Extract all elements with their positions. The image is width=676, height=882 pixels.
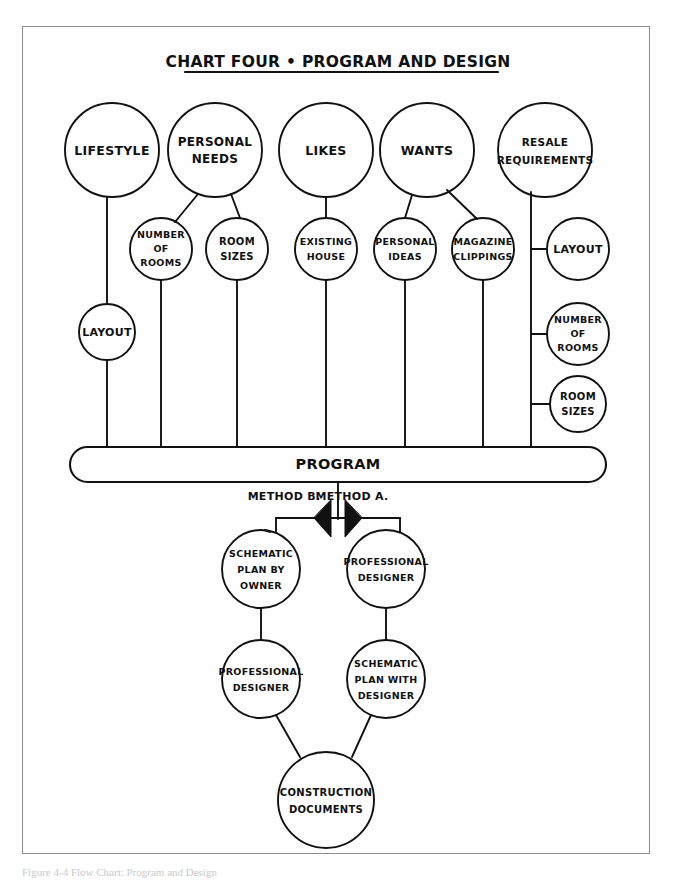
label-existing-house-line2: HOUSE	[307, 251, 346, 262]
node-magazine-clippings[interactable]	[452, 218, 514, 280]
label-number-rooms-line3: ROOMS	[140, 257, 181, 268]
label-prof-designer-b-line1: PROFESSIONAL	[218, 666, 303, 677]
edge-personalneeds-roomsizes	[231, 194, 240, 218]
node-personal-needs[interactable]	[168, 103, 262, 197]
node-existing-house[interactable]	[295, 218, 357, 280]
label-construction-docs-line1: CONSTRUCTION	[280, 787, 372, 798]
label-prof-designer-a-line1: PROFESSIONAL	[343, 556, 428, 567]
label-personal-ideas-line1: PERSONAL	[375, 236, 434, 247]
label-schematic-owner-line3: OWNER	[240, 580, 282, 591]
label-wants: WANTS	[401, 143, 453, 158]
label-room-sizes-right-line1: ROOM	[560, 391, 596, 402]
method-b-label: METHOD B.	[248, 490, 321, 503]
label-personal-needs-line1: PERSONAL	[178, 135, 253, 149]
label-magazine-clippings-line1: MAGAZINE	[453, 236, 512, 247]
label-schematic-owner-line1: SCHEMATIC	[229, 548, 293, 559]
label-schematic-owner-line2: PLAN BY	[237, 564, 284, 575]
label-number-rooms-line2: OF	[153, 243, 168, 254]
label-resale-line1: RESALE	[522, 136, 569, 148]
node-construction-documents[interactable]	[278, 752, 374, 848]
label-schematic-with-line3: DESIGNER	[358, 690, 415, 701]
page-canvas: CHART FOUR • PROGRAM AND DESIGN	[0, 0, 676, 882]
figure-caption: Figure 4-4 Flow Chart: Program and Desig…	[22, 866, 217, 878]
label-schematic-with-line1: SCHEMATIC	[354, 658, 418, 669]
label-existing-house-line1: EXISTING	[300, 236, 352, 247]
label-resale-line2: REQUIREMENTS	[497, 154, 594, 166]
label-magazine-clippings-line2: CLIPPINGS	[453, 251, 512, 262]
label-room-sizes-line1: ROOM	[219, 236, 255, 247]
node-professional-designer-a[interactable]	[347, 530, 425, 608]
edge-personalneeds-numberrooms	[175, 194, 198, 222]
label-number-rooms-right-line1: NUMBER	[554, 314, 602, 325]
label-program: PROGRAM	[296, 456, 381, 472]
method-a-arrowhead-icon	[345, 500, 362, 537]
chart-title: CHART FOUR • PROGRAM AND DESIGN	[165, 53, 510, 71]
label-personal-ideas-line2: IDEAS	[388, 251, 422, 262]
node-room-sizes[interactable]	[206, 218, 268, 280]
method-a-label: METHOD A.	[315, 490, 388, 503]
label-construction-docs-line2: DOCUMENTS	[289, 804, 363, 815]
label-personal-needs-line2: NEEDS	[192, 152, 239, 166]
label-likes: LIKES	[305, 143, 346, 158]
node-professional-designer-b[interactable]	[222, 640, 300, 718]
label-lifestyle: LIFESTYLE	[74, 143, 149, 158]
node-resale-requirements[interactable]	[498, 103, 592, 197]
edge-profdesigner-constructiondocs	[276, 715, 300, 757]
label-layout-left: LAYOUT	[82, 326, 132, 339]
label-room-sizes-line2: SIZES	[220, 251, 254, 262]
method-b-arrowhead-icon	[314, 500, 331, 537]
flow-chart-diagram: CHART FOUR • PROGRAM AND DESIGN	[0, 0, 676, 882]
label-schematic-with-line2: PLAN WITH	[355, 674, 418, 685]
edge-schematicwith-constructiondocs	[352, 715, 371, 757]
node-personal-ideas[interactable]	[374, 218, 436, 280]
label-prof-designer-b-line2: DESIGNER	[233, 682, 290, 693]
label-layout-right: LAYOUT	[553, 243, 603, 256]
label-prof-designer-a-line2: DESIGNER	[358, 572, 415, 583]
edge-wants-magazineclippings	[447, 190, 477, 219]
label-number-rooms-right-line3: ROOMS	[557, 342, 598, 353]
node-room-sizes-right[interactable]	[550, 376, 606, 432]
label-room-sizes-right-line2: SIZES	[561, 406, 595, 417]
label-number-rooms-line1: NUMBER	[137, 229, 185, 240]
edge-wants-personalideas	[405, 195, 412, 218]
label-number-rooms-right-line2: OF	[570, 328, 585, 339]
